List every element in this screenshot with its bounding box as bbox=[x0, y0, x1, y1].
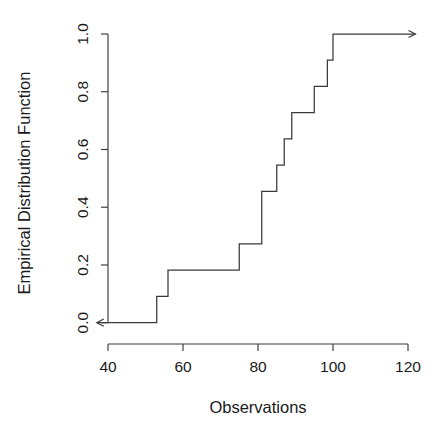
x-axis: 406080100120 bbox=[99, 344, 421, 375]
y-tick-label-2: 0.4 bbox=[74, 196, 91, 218]
x-tick-group bbox=[108, 344, 408, 351]
plot-canvas: 0.00.20.40.60.81.0 406080100120 Observat… bbox=[0, 0, 447, 441]
x-tick-label-group: 406080100120 bbox=[99, 358, 421, 375]
step-curve-path bbox=[97, 34, 416, 323]
x-tick-label-3: 100 bbox=[320, 358, 346, 375]
y-tick-group bbox=[101, 34, 108, 323]
y-axis: 0.00.20.40.60.81.0 bbox=[74, 23, 108, 334]
ecdf-plot: 0.00.20.40.60.81.0 406080100120 Observat… bbox=[0, 0, 447, 441]
x-tick-label-0: 40 bbox=[99, 358, 117, 375]
ecdf-step-curve bbox=[97, 30, 416, 326]
y-tick-label-0: 0.0 bbox=[74, 312, 91, 334]
x-tick-label-2: 80 bbox=[249, 358, 267, 375]
y-tick-label-4: 0.8 bbox=[74, 81, 91, 103]
y-tick-label-3: 0.6 bbox=[74, 139, 91, 161]
y-tick-label-5: 1.0 bbox=[74, 23, 91, 45]
y-tick-label-1: 0.2 bbox=[74, 254, 91, 276]
x-tick-label-1: 60 bbox=[174, 358, 192, 375]
x-axis-title: Observations bbox=[209, 398, 306, 416]
y-tick-label-group: 0.00.20.40.60.81.0 bbox=[74, 23, 91, 334]
x-tick-label-4: 120 bbox=[395, 358, 421, 375]
y-axis-title: Empirical Distribution Function bbox=[15, 72, 33, 295]
